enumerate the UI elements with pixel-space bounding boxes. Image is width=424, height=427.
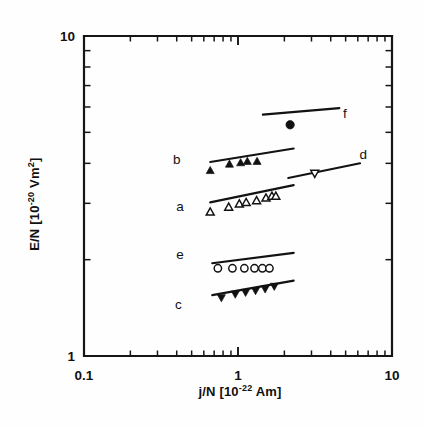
fit-line-a xyxy=(210,185,293,202)
fit-line-e xyxy=(212,253,293,263)
marker-filled-triangle-up xyxy=(206,166,214,173)
marker-open-circle xyxy=(229,265,236,272)
marker-filled-triangle-up xyxy=(253,157,261,164)
y-tick-label: 10 xyxy=(60,29,75,44)
marker-open-circle xyxy=(259,265,266,272)
data-markers xyxy=(206,121,319,302)
x-tick-label: 0.1 xyxy=(75,368,94,383)
series-label-c: c xyxy=(175,297,182,312)
series-label-e: e xyxy=(176,247,184,262)
marker-filled-triangle-down xyxy=(270,283,278,290)
marker-filled-triangle-down xyxy=(261,286,269,293)
series-label-d: d xyxy=(359,147,367,162)
series-label-f: f xyxy=(343,106,347,121)
log-log-scatter-plot: 0.1110110 abcdef xyxy=(0,0,424,427)
x-tick-label: 1 xyxy=(234,368,242,383)
series-label-a: a xyxy=(176,199,184,214)
x-tick-label: 10 xyxy=(384,368,399,383)
marker-filled-triangle-up xyxy=(243,157,251,164)
marker-open-circle xyxy=(241,265,248,272)
y-axis-title: E/N [10-20 Vm2] xyxy=(26,104,42,304)
marker-open-triangle-up xyxy=(253,197,261,204)
marker-filled-triangle-down xyxy=(217,295,225,302)
fit-line-f xyxy=(263,108,339,114)
marker-open-triangle-up xyxy=(225,203,233,210)
fit-line-b xyxy=(210,149,293,162)
figure-container: 0.1110110 abcdef E/N [10-20 Vm2] j/N [10… xyxy=(0,0,424,427)
marker-open-triangle-up xyxy=(242,198,250,205)
y-tick-label: 1 xyxy=(67,349,75,364)
marker-open-triangle-down xyxy=(311,170,319,177)
series-annotations: abcdef xyxy=(173,106,367,312)
marker-filled-triangle-down xyxy=(252,288,260,295)
marker-filled-triangle-down xyxy=(242,289,250,296)
series-label-b: b xyxy=(173,152,181,167)
marker-filled-triangle-down xyxy=(231,291,239,298)
marker-open-circle xyxy=(214,265,221,272)
marker-open-triangle-up xyxy=(206,208,214,215)
marker-filled-triangle-up xyxy=(225,160,233,167)
x-axis-title: j/N [10-22 Am] xyxy=(140,383,340,399)
marker-filled-circle xyxy=(286,121,294,129)
marker-open-circle xyxy=(266,265,273,272)
marker-open-circle xyxy=(251,265,258,272)
fit-line-d xyxy=(288,163,360,178)
